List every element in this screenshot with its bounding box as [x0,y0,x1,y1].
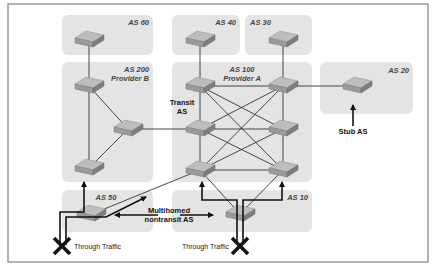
transit-as-label: Transit [170,98,195,107]
as200-sublabel: Provider B [111,74,150,83]
as60-label: AS 60 [127,18,150,27]
as30-label: AS 30 [249,18,272,27]
as100-label: AS 100 [228,65,255,74]
as100-sublabel: Provider A [223,74,261,83]
multihomed-label-2: nontransit AS [145,215,194,224]
transit-as-label-2: AS [177,107,187,116]
as200-label: AS 200 [123,65,150,74]
as20-label: AS 20 [387,66,410,75]
multihomed-label: Multihomed [148,206,190,215]
through-traffic-label-right: Through Traffic [182,243,229,251]
stub-as-label: Stub AS [339,127,368,136]
as10-label: AS 10 [286,193,309,202]
as40-label: AS 40 [214,18,237,27]
network-diagram: AS 60 AS 200 Provider B AS 40 AS 30 AS 1… [0,0,436,267]
through-traffic-label-left: Through Traffic [74,243,121,251]
as50-label: AS 50 [95,193,118,202]
